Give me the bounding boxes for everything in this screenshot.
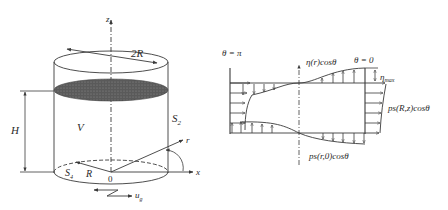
bottom-left-up-arrows (232, 122, 272, 133)
left-pressure-curve (245, 95, 252, 130)
eta-max-label: ηmax (380, 72, 395, 83)
eta-curve (252, 68, 365, 95)
eta-cos-label: η(r)cosθ (306, 57, 337, 67)
bottom-surface-label: S4 (65, 167, 73, 180)
z-axis-label: z (105, 14, 110, 24)
right-wall-arrows (365, 93, 383, 123)
ground-motion-icon (94, 190, 132, 196)
height-label: H (10, 124, 20, 136)
ps-r0-label: ps(r,0)cosθ (308, 151, 349, 161)
diagram-canvas: z 2R V S2 H r x S4 R 0 ug (0, 0, 448, 210)
theta-arc (166, 150, 183, 171)
right-pressure-curve (380, 84, 386, 133)
left-wall-arrows (230, 83, 250, 123)
side-surface-label: S2 (172, 112, 182, 127)
volume-label: V (77, 121, 85, 133)
r-axis-label: r (186, 135, 190, 145)
theta-zero-label: θ = 0 (354, 55, 374, 65)
cross-section-figure: θ = π η(r)cosθ θ = 0 ηmax ps(R,z)cosθ ps… (222, 48, 430, 165)
fluid-surface (54, 79, 168, 101)
diameter-label: 2R (131, 47, 144, 59)
ps-rz-label: ps(R,z)cosθ (387, 103, 430, 113)
ground-motion-label: ug (135, 190, 143, 202)
radius-arrow (76, 162, 111, 172)
r-axis (111, 140, 183, 172)
radius-label: R (85, 168, 92, 179)
cylinder-figure: z 2R V S2 H r x S4 R 0 ug (10, 14, 200, 202)
theta-pi-label: θ = π (222, 48, 242, 58)
origin-label: 0 (108, 174, 113, 184)
bottom-right-down-arrows (323, 133, 364, 143)
x-axis-label: x (195, 167, 200, 177)
